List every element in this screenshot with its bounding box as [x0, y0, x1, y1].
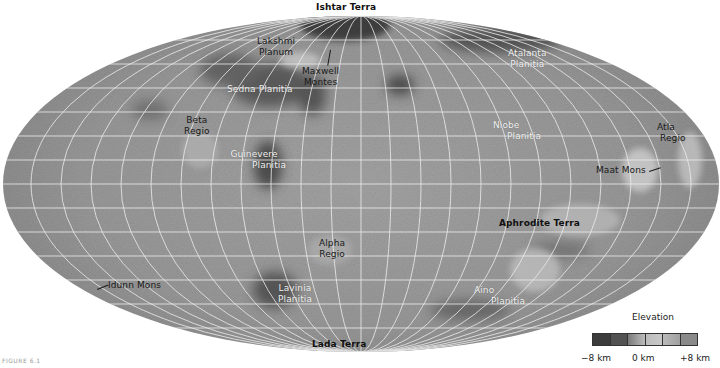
legend-tick-max: +8 km: [680, 353, 710, 363]
legend-segment: [663, 334, 681, 345]
label-lakshmi-planum-line2: Planum: [257, 47, 295, 58]
label-atalanta-planitia-line1: Atalanta: [508, 48, 547, 59]
label-idunn-mons: Idunn Mons: [108, 280, 161, 291]
label-atla-regio: Atla Regio: [657, 122, 686, 144]
label-aphrodite-terra: Aphrodite Terra: [499, 218, 580, 229]
legend-segment: [681, 334, 698, 345]
label-beta-regio: Beta Regio: [184, 115, 210, 137]
label-maat-mons: Maat Mons: [596, 165, 646, 176]
legend-segment: [646, 334, 664, 345]
label-guinevere-planitia-line1: Guinevere: [222, 149, 286, 160]
label-lada-terra: Lada Terra: [312, 339, 366, 350]
label-lakshmi-planum: Lakshmi Planum: [257, 36, 295, 58]
label-ishtar-terra: Ishtar Terra: [316, 2, 376, 13]
label-atalanta-planitia-line2: Planitia: [508, 59, 547, 70]
label-atla-regio-line1: Atla: [657, 122, 686, 133]
label-alpha-regio-line1: Alpha: [319, 238, 345, 249]
label-niobe-planitia: Niobe Planitia: [493, 120, 541, 142]
label-aino-planitia-line2: Planitia: [474, 296, 525, 307]
label-lakshmi-planum-line1: Lakshmi: [257, 36, 295, 47]
label-alpha-regio-line2: Regio: [319, 249, 345, 260]
label-lavinia-planitia: Lavinia Planitia: [278, 283, 312, 305]
label-guinevere-planitia-line2: Planitia: [222, 160, 286, 171]
legend-color-bar: [592, 333, 698, 346]
label-beta-regio-line2: Regio: [184, 126, 210, 137]
label-lavinia-planitia-line1: Lavinia: [278, 283, 312, 294]
label-aino-planitia: Aino Planitia: [474, 285, 525, 307]
legend-tick-min: −8 km: [581, 353, 611, 363]
label-atla-regio-line2: Regio: [657, 133, 686, 144]
label-niobe-planitia-line2: Planitia: [493, 131, 541, 142]
legend-tick-zero: 0 km: [632, 353, 655, 363]
label-maxwell-montes: Maxwell Montes: [302, 66, 339, 88]
figure-caption: FIGURE 6.1: [2, 357, 41, 364]
legend-segment: [593, 334, 611, 345]
elevation-legend: Elevation −8 km 0 km +8 km: [583, 308, 720, 363]
label-beta-regio-line1: Beta: [184, 115, 210, 126]
label-lavinia-planitia-line2: Planitia: [278, 294, 312, 305]
label-maxwell-montes-line2: Montes: [302, 77, 339, 88]
label-aino-planitia-line1: Aino: [474, 285, 525, 296]
venus-elevation-map: Ishtar Terra Lakshmi Planum Maxwell Mont…: [0, 0, 720, 368]
label-niobe-planitia-line1: Niobe: [493, 120, 541, 131]
label-guinevere-planitia: Guinevere Planitia: [222, 149, 286, 171]
legend-segment: [611, 334, 629, 345]
label-sedna-planitia: Sedna Planitia: [227, 84, 293, 95]
label-atalanta-planitia: Atalanta Planitia: [508, 48, 547, 70]
label-alpha-regio: Alpha Regio: [319, 238, 345, 260]
legend-title: Elevation: [583, 312, 720, 322]
legend-segment: [628, 334, 646, 345]
label-maxwell-montes-line1: Maxwell: [302, 66, 339, 77]
